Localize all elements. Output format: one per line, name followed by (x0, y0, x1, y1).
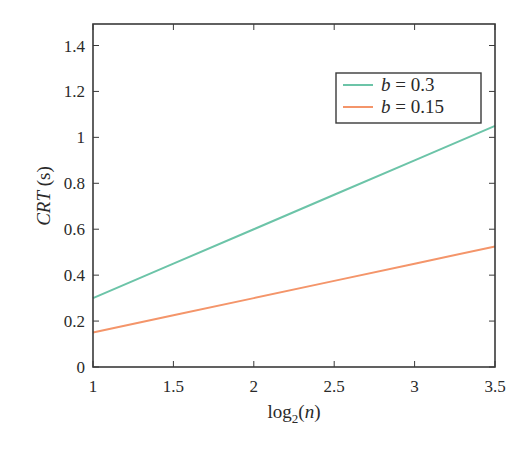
y-tick-label: 1 (77, 128, 86, 147)
plot-lines (93, 126, 495, 333)
line-chart: 11.522.533.5 00.20.40.60.811.21.4 CRT (s… (0, 0, 527, 449)
x-tick-labels: 11.522.533.5 (89, 377, 506, 396)
x-tick-label: 1 (89, 377, 98, 396)
y-tick-label: 0.4 (64, 266, 86, 285)
y-axis-label: CRT (s) (33, 166, 55, 226)
x-tick-label: 1.5 (163, 377, 184, 396)
x-axis-label: log2(n) (268, 401, 321, 426)
x-tick-label: 2.5 (324, 377, 345, 396)
y-tick-label: 1.2 (64, 82, 85, 101)
x-tick-label: 2 (250, 377, 259, 396)
y-tick-label: 0.6 (64, 220, 85, 239)
series-line-1 (93, 246, 495, 332)
y-tick-label: 1.4 (64, 37, 86, 56)
legend: b = 0.3 b = 0.15 (336, 73, 481, 123)
y-tick-label: 0.8 (64, 174, 85, 193)
legend-label: b = 0.15 (381, 96, 444, 117)
series-line-0 (93, 126, 495, 298)
y-tick-label: 0 (77, 358, 86, 377)
y-tick-label: 0.2 (64, 312, 85, 331)
x-tick-label: 3.5 (484, 377, 505, 396)
legend-label: b = 0.3 (381, 74, 434, 95)
x-tick-label: 3 (410, 377, 419, 396)
y-tick-labels: 00.20.40.60.811.21.4 (64, 37, 86, 378)
